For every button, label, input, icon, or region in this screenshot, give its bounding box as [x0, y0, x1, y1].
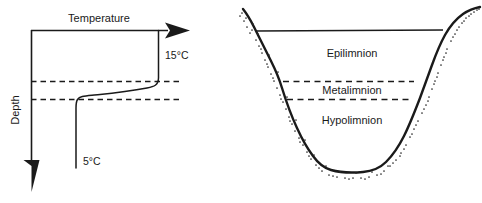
metalimnion-label: Metalimnion — [322, 84, 381, 96]
hypolimnion-label: Hypolimnion — [322, 114, 383, 126]
thermal-stratification-figure: Temperature Depth 15°C 5°C — [0, 0, 482, 203]
temperature-axis-label: Temperature — [68, 12, 130, 24]
down-arrow-icon — [24, 160, 40, 192]
right-arrow-icon — [165, 23, 190, 39]
epilimnion-label: Epilimnion — [327, 47, 378, 59]
lake-basin-cross-section-panel: Epilimnion Metalimnion Hypolimnion — [239, 7, 480, 180]
temperature-depth-profile-panel: Temperature Depth 15°C 5°C — [9, 12, 190, 192]
depth-axis-label: Depth — [9, 95, 21, 124]
bottom-temperature-label: 5°C — [83, 155, 101, 167]
water-surface-line — [256, 30, 443, 31]
surface-temperature-label: 15°C — [165, 49, 189, 61]
